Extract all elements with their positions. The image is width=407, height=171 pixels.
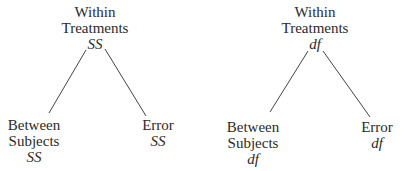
node-measure: df xyxy=(223,151,283,167)
df-error-node: Error df xyxy=(355,119,399,151)
node-label: Subjects xyxy=(223,135,283,151)
df-right-branch xyxy=(323,51,370,117)
node-label: Within xyxy=(278,4,352,20)
node-measure: df xyxy=(355,135,399,151)
df-between-subjects-node: Between Subjects df xyxy=(223,119,283,167)
node-label: Error xyxy=(355,119,399,135)
ss-right-branch xyxy=(105,49,146,116)
node-measure: SS xyxy=(4,149,64,165)
node-label: Treatments xyxy=(278,20,352,36)
node-label: Subjects xyxy=(4,133,64,149)
node-measure: SS xyxy=(58,36,132,52)
node-label: Error xyxy=(136,117,180,133)
node-label: Within xyxy=(58,4,132,20)
node-measure: df xyxy=(278,36,352,52)
ss-within-treatments-node: Within Treatments SS xyxy=(58,4,132,52)
ss-error-node: Error SS xyxy=(136,117,180,149)
df-left-branch xyxy=(270,51,308,112)
ss-left-branch xyxy=(49,50,86,113)
node-label: Treatments xyxy=(58,20,132,36)
df-within-treatments-node: Within Treatments df xyxy=(278,4,352,52)
node-measure: SS xyxy=(136,133,180,149)
node-label: Between xyxy=(4,117,64,133)
ss-between-subjects-node: Between Subjects SS xyxy=(4,117,64,165)
node-label: Between xyxy=(223,119,283,135)
